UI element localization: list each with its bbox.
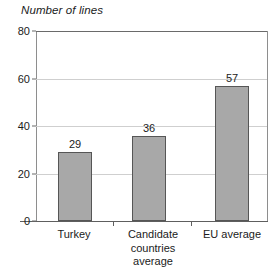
plot-area: 80 60 40 20 0 29 36 57 <box>36 31 267 221</box>
y-tick-label-0: 0 <box>24 215 30 227</box>
y-tick-label-60: 60 <box>18 73 30 85</box>
bar-value-candidate-countries-average: 36 <box>143 122 155 134</box>
y-tick-label-80: 80 <box>18 25 30 37</box>
y-tick-mark-0 <box>32 221 36 222</box>
x-tick-mark-1 <box>113 221 114 226</box>
bar-value-turkey: 29 <box>69 138 81 150</box>
x-label-line-3: average <box>133 255 173 267</box>
gridline-0: 0 <box>36 221 267 222</box>
bar-chart-figure: Number of lines 80 60 40 20 0 29 <box>0 0 279 278</box>
y-tick-label-20: 20 <box>18 168 30 180</box>
x-label-eu-average: EU average <box>194 228 270 242</box>
chart-title: Number of lines <box>21 4 103 16</box>
gridline-80: 80 <box>36 31 267 32</box>
x-label-turkey: Turkey <box>39 228 109 242</box>
y-tick-label-40: 40 <box>18 120 30 132</box>
bar-eu-average: 57 <box>215 86 249 221</box>
bar-turkey: 29 <box>58 152 92 221</box>
x-tick-mark-2 <box>191 221 192 226</box>
y-tick-mark-40 <box>32 126 36 127</box>
plot-right-border <box>267 31 268 222</box>
x-label-line-2: countries <box>131 242 176 254</box>
y-tick-mark-60 <box>32 78 36 79</box>
y-tick-mark-80 <box>32 31 36 32</box>
y-tick-mark-20 <box>32 173 36 174</box>
bar-candidate-countries-average: 36 <box>132 136 166 222</box>
x-label-line-1: Candidate <box>128 228 178 240</box>
x-label-candidate-countries-average: Candidatecountriesaverage <box>117 228 189 269</box>
bar-value-eu-average: 57 <box>226 72 238 84</box>
